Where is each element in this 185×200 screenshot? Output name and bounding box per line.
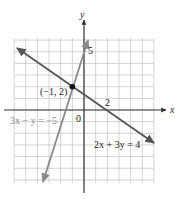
intersection-point bbox=[70, 84, 76, 90]
y-axis-label: y bbox=[79, 9, 85, 20]
x-tick-2-label: 2 bbox=[105, 97, 110, 108]
intersection-label: (−1, 2) bbox=[40, 86, 67, 98]
line-3x-minus-y-eq-neg5 bbox=[43, 40, 88, 182]
origin-label: 0 bbox=[76, 113, 81, 124]
y-tick-5-label: 5 bbox=[88, 45, 93, 56]
coordinate-graph: x y 0 2 5 (−1, 2) 2x + 3y = 4 3x − y = −… bbox=[0, 0, 185, 200]
equation-label-2: 3x − y = −5 bbox=[10, 115, 57, 126]
x-axis-label: x bbox=[169, 104, 175, 115]
equation-label-1: 2x + 3y = 4 bbox=[94, 139, 140, 150]
